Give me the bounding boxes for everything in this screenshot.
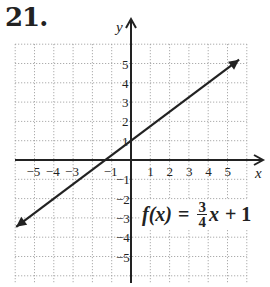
line-arrow-icon	[16, 217, 27, 227]
x-tick-label: −5	[27, 164, 41, 179]
formula-fraction: 3 4	[197, 200, 207, 229]
fraction-numerator: 3	[197, 200, 207, 215]
line-arrow-icon	[228, 60, 239, 70]
formula-lhs: f(x)	[142, 203, 172, 226]
x-tick-label: −3	[65, 164, 79, 179]
formula-var: x	[209, 203, 219, 226]
x-tick-label: 3	[186, 164, 193, 179]
function-formula: f(x) = 3 4 x + 1	[140, 200, 253, 229]
x-tick-label: −4	[46, 164, 60, 179]
y-tick-label: 4	[122, 76, 129, 91]
formula-eq: =	[178, 203, 189, 226]
y-axis-label: y	[114, 19, 123, 35]
axes	[15, 19, 263, 283]
y-tick-label: 2	[122, 114, 129, 129]
coordinate-plane: −5−4−3−112345−5−4−3−2−112345 x y	[0, 0, 270, 287]
x-tick-label: 1	[147, 164, 154, 179]
y-tick-label: −1	[116, 172, 130, 187]
x-axis-label: x	[254, 165, 262, 181]
y-tick-label: 3	[122, 95, 129, 110]
formula-rest: + 1	[225, 203, 251, 226]
y-tick-label: −5	[116, 250, 130, 265]
x-tick-label: 2	[167, 164, 174, 179]
fraction-denominator: 4	[198, 215, 206, 229]
y-tick-label: −3	[116, 211, 130, 226]
y-tick-label: 5	[122, 57, 129, 72]
y-tick-label: −2	[116, 192, 130, 207]
x-tick-label: 4	[205, 164, 212, 179]
y-tick-label: −4	[116, 230, 130, 245]
x-tick-label: 5	[225, 164, 232, 179]
